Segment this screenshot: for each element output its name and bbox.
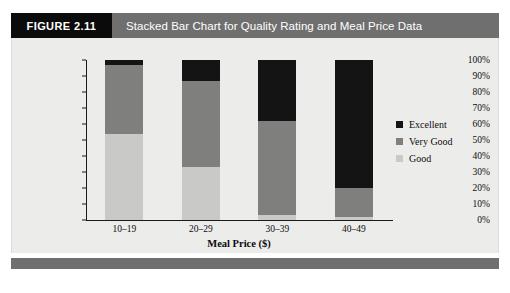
chart-panel: 100%90%80%70%60%50%40%30%20%10%0% 10–192… bbox=[11, 38, 499, 253]
bar-segment-very-good[interactable] bbox=[335, 188, 373, 217]
bar-segment-excellent[interactable] bbox=[258, 60, 296, 121]
chart-legend: ExcellentVery GoodGood bbox=[396, 116, 453, 167]
stacked-bar[interactable] bbox=[335, 60, 373, 220]
y-axis-tick-label: 50% bbox=[473, 135, 490, 145]
y-axis-tick-label: 10% bbox=[473, 199, 490, 209]
y-axis-tick-label: 70% bbox=[473, 103, 490, 113]
x-axis-tick-label: 20–29 bbox=[189, 224, 213, 234]
bar-segment-good[interactable] bbox=[182, 167, 220, 220]
y-axis-tick-label: 0% bbox=[477, 215, 490, 225]
plot-area bbox=[86, 60, 392, 220]
x-axis-title: Meal Price ($) bbox=[86, 238, 392, 249]
y-axis-tick-label: 20% bbox=[473, 183, 490, 193]
legend-label: Very Good bbox=[409, 136, 453, 147]
y-axis-tick-label: 40% bbox=[473, 151, 490, 161]
legend-item[interactable]: Very Good bbox=[396, 133, 453, 150]
figure-footer-bar bbox=[11, 258, 499, 269]
y-axis-tick-label: 80% bbox=[473, 87, 490, 97]
x-axis-tick-label: 40–49 bbox=[342, 224, 366, 234]
bar-segment-good[interactable] bbox=[105, 134, 143, 220]
bar-segment-very-good[interactable] bbox=[258, 121, 296, 215]
bar-segment-excellent[interactable] bbox=[182, 60, 220, 81]
stacked-bar[interactable] bbox=[182, 60, 220, 220]
figure-container: FIGURE 2.11 Stacked Bar Chart for Qualit… bbox=[0, 0, 510, 293]
bar-segment-excellent[interactable] bbox=[105, 60, 143, 65]
figure-header: FIGURE 2.11 Stacked Bar Chart for Qualit… bbox=[11, 13, 499, 38]
legend-label: Good bbox=[409, 153, 431, 164]
legend-label: Excellent bbox=[409, 119, 447, 130]
y-axis-tick-label: 90% bbox=[473, 71, 490, 81]
legend-swatch-icon bbox=[396, 155, 403, 162]
bar-segment-very-good[interactable] bbox=[182, 81, 220, 167]
bar-segment-very-good[interactable] bbox=[105, 65, 143, 134]
legend-swatch-icon bbox=[396, 138, 403, 145]
bar-segment-good[interactable] bbox=[258, 215, 296, 220]
y-axis-tick-label: 60% bbox=[473, 119, 490, 129]
x-axis-line bbox=[86, 220, 393, 221]
stacked-bar[interactable] bbox=[105, 60, 143, 220]
figure-title: Stacked Bar Chart for Quality Rating and… bbox=[112, 13, 499, 38]
y-axis-tick-label: 100% bbox=[468, 55, 490, 65]
legend-item[interactable]: Excellent bbox=[396, 116, 453, 133]
bar-segment-excellent[interactable] bbox=[335, 60, 373, 188]
legend-item[interactable]: Good bbox=[396, 150, 453, 167]
bar-segment-good[interactable] bbox=[335, 217, 373, 220]
x-axis-tick-label: 10–19 bbox=[112, 224, 136, 234]
figure-number-tag: FIGURE 2.11 bbox=[11, 13, 112, 38]
stacked-bar[interactable] bbox=[258, 60, 296, 220]
x-axis-tick-label: 30–39 bbox=[265, 224, 289, 234]
legend-swatch-icon bbox=[396, 121, 403, 128]
y-axis-tick-label: 30% bbox=[473, 167, 490, 177]
